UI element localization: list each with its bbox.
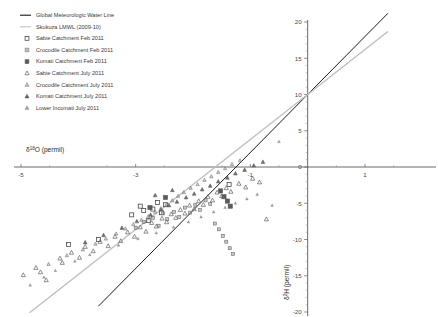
data-point xyxy=(278,140,281,142)
data-points xyxy=(21,140,280,286)
data-point xyxy=(58,256,62,260)
data-point xyxy=(47,262,50,265)
data-point xyxy=(173,210,176,213)
data-point xyxy=(134,226,137,229)
data-point xyxy=(264,217,268,221)
legend-label: Crocodile Catchment July 2011 xyxy=(36,82,113,88)
data-point xyxy=(170,188,174,192)
data-point xyxy=(178,216,181,219)
data-point xyxy=(187,221,190,223)
y-axis-title: δ2H (permil) xyxy=(283,265,292,300)
data-point xyxy=(234,202,237,204)
filled-triangle-icon xyxy=(25,94,29,98)
legend-item: Crocodile Catchment Feb 2011 xyxy=(25,47,113,53)
data-point xyxy=(192,192,196,196)
legend-item: Global Meteorologic Water Line xyxy=(20,12,114,18)
data-point xyxy=(261,160,265,164)
data-point xyxy=(140,218,143,221)
y-tick-label: -15 xyxy=(293,272,303,279)
data-point xyxy=(200,187,204,191)
data-point xyxy=(149,213,153,217)
legend-label: Global Meteorologic Water Line xyxy=(36,12,114,18)
data-point xyxy=(232,253,235,256)
data-point xyxy=(102,233,106,237)
legend-item: Komati Catchment Feb 2011 xyxy=(25,58,107,64)
data-point xyxy=(210,175,213,178)
legend-item: Komati Catchment July 2011 xyxy=(25,93,107,99)
data-point xyxy=(227,182,231,186)
data-point xyxy=(44,278,48,282)
data-point xyxy=(153,193,157,197)
legend-label: Sabie Catchment July 2011 xyxy=(36,70,104,76)
data-point xyxy=(138,204,142,208)
data-point xyxy=(196,183,199,186)
data-point xyxy=(210,198,214,202)
data-point xyxy=(38,270,42,274)
legend-item: Skukuza LMWL (2009-10) xyxy=(20,24,101,30)
data-point xyxy=(74,260,77,262)
data-point xyxy=(243,168,247,172)
data-point xyxy=(34,266,38,270)
y-tick-label: 5 xyxy=(298,127,302,134)
data-point xyxy=(163,195,167,199)
y-tick-label: 15 xyxy=(295,55,302,62)
data-series xyxy=(21,176,268,281)
data-point xyxy=(187,203,191,207)
y-tick-label: -5 xyxy=(296,200,302,207)
data-point xyxy=(228,247,231,250)
data-point xyxy=(144,229,148,233)
data-point xyxy=(217,228,220,231)
data-point xyxy=(229,189,233,193)
data-point xyxy=(94,242,97,245)
x-tick-label: -5 xyxy=(18,171,24,178)
legend-label: Crocodile Catchment Feb 2011 xyxy=(36,47,113,53)
small-triangle-icon xyxy=(25,83,29,87)
data-series xyxy=(47,159,242,266)
data-point xyxy=(225,199,229,203)
data-point xyxy=(206,194,210,198)
legend-item: Sabie Catchment Feb 2011 xyxy=(25,35,104,41)
data-point xyxy=(69,250,73,254)
data-point xyxy=(175,200,179,204)
axis-titles: δ18O (permil)δ2H (permil) xyxy=(26,146,291,301)
data-point xyxy=(83,245,87,249)
data-point xyxy=(124,227,127,230)
data-point xyxy=(216,179,220,183)
y-tick-label: 0 xyxy=(298,163,302,170)
legend-label: Lower Incomati July 2011 xyxy=(36,105,99,111)
data-point xyxy=(43,276,46,278)
data-point xyxy=(67,243,71,247)
data-point xyxy=(120,226,124,230)
data-point xyxy=(230,162,233,165)
legend-label: Skukuza LMWL (2009-10) xyxy=(36,24,101,30)
data-point xyxy=(257,180,261,184)
data-point xyxy=(218,189,222,193)
legend-label: Komati Catchment Feb 2011 xyxy=(36,58,107,64)
data-point xyxy=(114,232,117,235)
data-point xyxy=(237,181,241,185)
chart-legend: Global Meteorologic Water LineSkukuza LM… xyxy=(20,12,114,111)
data-point xyxy=(106,244,110,248)
data-point xyxy=(54,269,57,271)
data-point xyxy=(83,240,87,244)
data-point xyxy=(271,204,274,206)
data-point xyxy=(126,230,130,234)
data-point xyxy=(174,216,178,220)
open-square-icon xyxy=(25,37,29,41)
data-point xyxy=(88,253,91,255)
scatter-plot: Global Meteorologic Water LineSkukuza LM… xyxy=(0,0,438,317)
data-point xyxy=(104,237,107,240)
data-point xyxy=(132,234,136,238)
chart-canvas: Global Meteorologic Water LineSkukuza LM… xyxy=(0,0,438,317)
data-point xyxy=(29,284,32,286)
data-point xyxy=(204,199,207,202)
data-point xyxy=(21,273,25,277)
data-point xyxy=(65,254,68,257)
reference-line xyxy=(98,13,388,306)
data-point xyxy=(151,216,154,219)
data-point xyxy=(77,255,81,259)
x-tick-label: 1 xyxy=(363,171,367,178)
data-point xyxy=(132,222,135,225)
data-point xyxy=(91,249,95,253)
data-point xyxy=(172,226,175,228)
